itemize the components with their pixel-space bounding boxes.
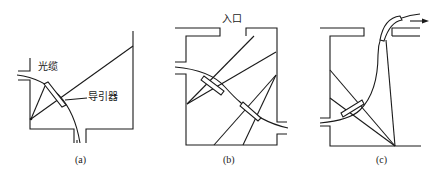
label-cable: 光缆 — [38, 62, 58, 72]
panel-c-arrow-head-icon — [422, 19, 429, 24]
panel-c-top-right — [392, 28, 420, 36]
panel-a-left-wall — [18, 80, 74, 143]
panel-b-top-right — [246, 28, 287, 122]
panel-a — [17, 31, 133, 143]
panel-a-top-stub — [18, 58, 30, 71]
panel-a-label-leader — [65, 98, 87, 100]
panel-c-line-3 — [386, 40, 395, 146]
panel-a-anchor-point — [30, 118, 33, 121]
panel-c-bottom — [320, 126, 421, 146]
caption-c: (c) — [376, 155, 387, 165]
panel-c-line-1 — [330, 70, 395, 146]
panel-b-left-wall — [175, 74, 287, 145]
label-inlet: 入口 — [222, 14, 242, 24]
caption-b: (b) — [223, 155, 235, 165]
panel-b-top-left — [175, 28, 220, 62]
panel-b-cable — [175, 67, 288, 128]
panel-a-guide — [44, 82, 66, 107]
panel-b-line-2 — [187, 52, 276, 104]
panel-a-right-wall — [86, 31, 133, 143]
panel-c — [320, 14, 429, 146]
caption-a: (a) — [75, 155, 86, 165]
panel-c-cable — [320, 14, 420, 123]
panel-b — [175, 28, 288, 145]
label-guide: 导引器 — [88, 92, 118, 102]
diagram-canvas — [0, 0, 440, 180]
